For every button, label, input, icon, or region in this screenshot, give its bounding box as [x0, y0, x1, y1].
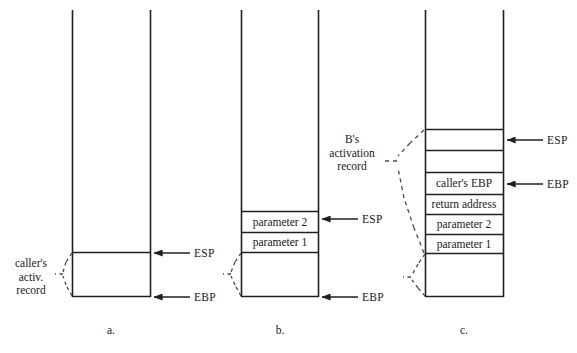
cell-label-c-return-address: return address [432, 198, 497, 210]
register-label-esp-c: ESP [547, 134, 568, 146]
caller-note-line-3: record [1, 284, 61, 298]
cell-label-c-parameter-1: parameter 1 [437, 238, 492, 250]
cell-label-c-parameter-2: parameter 2 [437, 218, 492, 230]
cell-label-b-parameter-2: parameter 2 [253, 216, 308, 228]
panel-a-column [55, 10, 190, 297]
register-label-esp-a: ESP [194, 247, 215, 259]
b-note-line-3: record [319, 160, 385, 174]
b-note-line-2: activation [319, 146, 385, 160]
panel-caption-c: c. [460, 324, 468, 336]
b-activation-record-note: B's activation record [319, 133, 385, 174]
panel-c-column [385, 10, 543, 297]
caller-note-line-1: caller's [1, 257, 61, 271]
caller-note-line-2: activ. [1, 270, 61, 284]
stack-diagram: caller's activ. record ESP EBP a. parame… [0, 0, 577, 353]
cell-label-b-parameter-1: parameter 1 [253, 236, 308, 248]
panel-caption-b: b. [276, 324, 285, 336]
caller-activation-record-note: caller's activ. record [1, 257, 61, 298]
b-note-line-1: B's [319, 133, 385, 147]
register-label-ebp-a: EBP [194, 291, 216, 303]
cell-label-c-callers-ebp: caller's EBP [436, 177, 492, 189]
register-label-ebp-c: EBP [547, 178, 569, 190]
register-label-esp-b: ESP [362, 213, 383, 225]
panel-caption-a: a. [107, 324, 115, 336]
register-label-ebp-b: EBP [362, 291, 384, 303]
